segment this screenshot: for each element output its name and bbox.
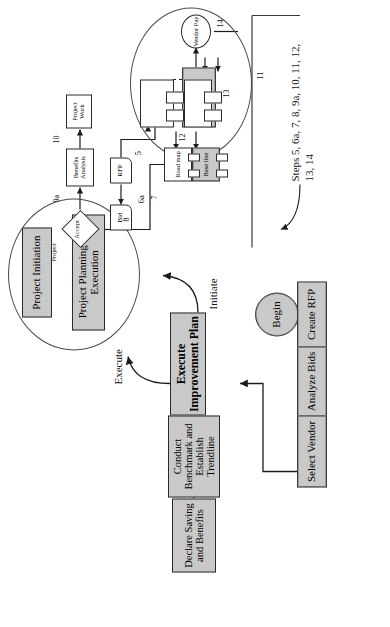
diagram-stage: Project Initiation Project Planning and … (0, 0, 390, 627)
step-number-12: 12 (178, 133, 187, 141)
steps-note-text: Steps 5, 6a, 7, 8, 9a, 10, 11, 12, 13, 1… (289, 43, 315, 181)
cluster-box-a (166, 109, 184, 121)
vendor-pay-label: Vendor Pay (193, 16, 200, 46)
roadmap-stub-a (188, 169, 200, 177)
vendor-pay-node[interactable]: Vendor Pay (181, 14, 211, 48)
project-initiation-box[interactable]: Project Initiation (22, 227, 52, 317)
execute-improvement-plan-box[interactable]: Execute Improvement Plan (170, 312, 206, 415)
benefits-analysis-box[interactable]: Benefits Analysis (66, 148, 94, 186)
base-line-label: Base line (203, 152, 210, 176)
steps-note: Steps 5, 6a, 7, 8, 9a, 10, 11, 12, 13, 1… (289, 31, 317, 181)
declare-saving-label: Declare Saving and Benefits (183, 499, 205, 571)
initiate-text: Initiate (207, 278, 219, 309)
baseline-stub-a (216, 169, 228, 177)
step-number-13: 13 (222, 89, 231, 97)
step-number-10: 10 (52, 135, 61, 143)
step-number-9a: 9a (52, 194, 61, 202)
conduct-benchmark-label: Conduct Benchmark and Establish Trendlin… (172, 416, 216, 496)
cluster-box-d (204, 109, 222, 121)
step-number-11: 11 (256, 71, 265, 79)
declare-saving-box[interactable]: Declare Saving and Benefits (172, 498, 216, 572)
begin-node[interactable]: Begin (255, 292, 299, 336)
step-number-6a: 6a (136, 195, 146, 204)
benefits-analysis-label: Benefits Analysis (73, 149, 87, 185)
conduct-benchmark-box[interactable]: Conduct Benchmark and Establish Trendlin… (168, 415, 220, 497)
diagram-canvas: Project Initiation Project Planning and … (0, 0, 390, 627)
rfp-doc[interactable]: RFP (110, 157, 132, 183)
cluster-box-b (166, 91, 184, 103)
cluster-box-e (204, 91, 222, 103)
project-initiation-label: Project Initiation (31, 235, 43, 309)
step-number-8: 8 (122, 217, 131, 221)
create-rfp-box[interactable]: Create RFP (297, 281, 327, 347)
road-map-label: Road map (175, 151, 182, 178)
analyze-bids-label: Analyze Bids (306, 351, 318, 411)
rfp-doc-label: RFP (117, 164, 124, 176)
edge-label-initiate: Initiate (207, 278, 219, 309)
project-work-box[interactable]: Project Work (66, 94, 92, 128)
step-number-7: 7 (150, 195, 159, 199)
analyze-bids-box[interactable]: Analyze Bids (297, 346, 327, 416)
select-vendor-box[interactable]: Select Vendor (297, 415, 327, 487)
create-rfp-label: Create RFP (306, 288, 318, 339)
step-number-14: 14 (216, 19, 225, 27)
baseline-stub-b (216, 153, 228, 161)
project-work-label: Project Work (72, 95, 86, 127)
select-vendor-label: Select Vendor (306, 420, 318, 481)
begin-label: Begin (271, 301, 283, 327)
execute-improvement-plan-label: Execute Improvement Plan (175, 313, 200, 414)
step-number-5: 5 (133, 151, 143, 156)
edge-label-execute: Execute (112, 349, 124, 384)
accept-decision-label: Accept (73, 212, 80, 246)
roadmap-stub-b (188, 153, 200, 161)
accept-decision-caption: Project (50, 243, 57, 261)
accept-decision[interactable]: Accept (64, 212, 96, 246)
execute-text: Execute (112, 349, 124, 384)
